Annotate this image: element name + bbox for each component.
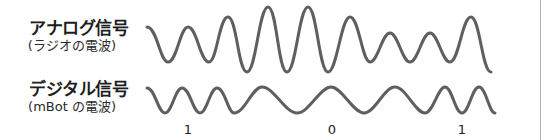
bit-label-1: 1 [184,123,192,137]
right-divider-line [540,0,541,140]
bit-label-1-end: 1 [458,123,466,137]
waveform-diagram [0,0,554,140]
digital-waveform [147,87,495,113]
bit-label-0: 0 [328,123,336,137]
analog-waveform [147,7,491,72]
